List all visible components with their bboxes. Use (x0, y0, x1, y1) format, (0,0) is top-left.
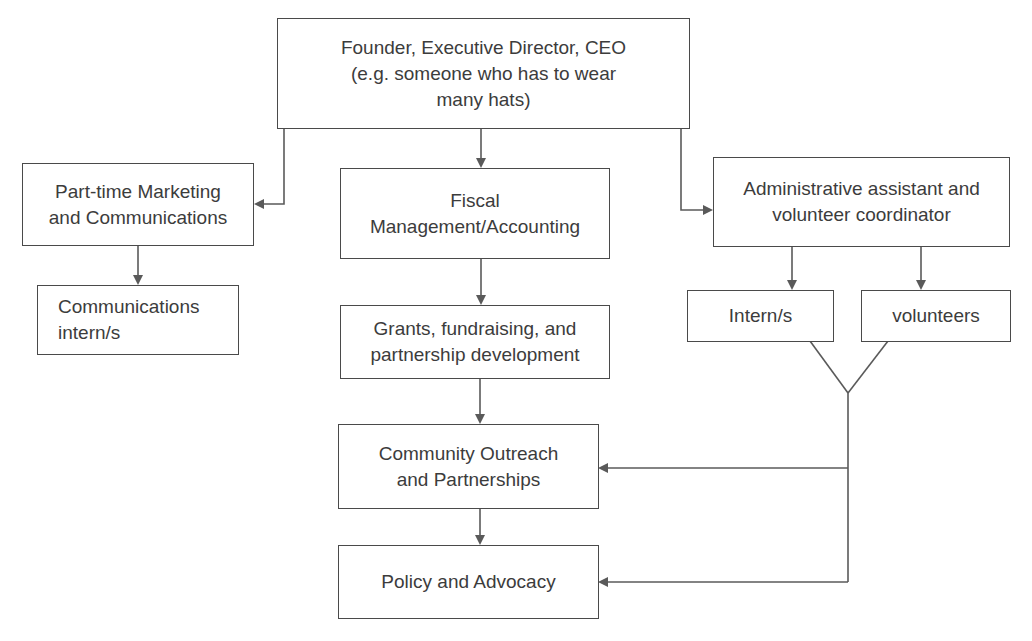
node-ceo-label: Founder, Executive Director, CEO (e.g. s… (341, 35, 626, 113)
node-interns-label: Intern/s (729, 303, 792, 329)
node-marketing: Part-time Marketing and Communications (22, 163, 254, 246)
node-community-label: Community Outreach and Partnerships (379, 441, 559, 493)
node-grants-label: Grants, fundraising, and partnership dev… (370, 316, 579, 368)
edge-ceo-admin (681, 128, 711, 210)
node-policy: Policy and Advocacy (338, 545, 599, 619)
node-interns: Intern/s (687, 290, 834, 342)
node-fiscal: Fiscal Management/Accounting (340, 168, 610, 259)
org-chart-diagram: Founder, Executive Director, CEO (e.g. s… (0, 0, 1032, 641)
node-marketing-label: Part-time Marketing and Communications (49, 179, 227, 231)
node-grants: Grants, fundraising, and partnership dev… (340, 305, 610, 379)
edge-ceo-marketing (256, 128, 284, 204)
node-volunteers-label: volunteers (892, 303, 980, 329)
node-volunteers: volunteers (861, 290, 1011, 342)
node-admin: Administrative assistant and volunteer c… (713, 157, 1010, 247)
edge-merge-volunteers (848, 341, 888, 393)
node-comms-interns: Communications intern/s (37, 285, 239, 355)
node-fiscal-label: Fiscal Management/Accounting (370, 188, 580, 240)
node-admin-label: Administrative assistant and volunteer c… (743, 176, 980, 228)
node-community: Community Outreach and Partnerships (338, 424, 599, 509)
edge-merge-interns (810, 341, 848, 393)
node-ceo: Founder, Executive Director, CEO (e.g. s… (277, 18, 690, 129)
node-policy-label: Policy and Advocacy (381, 569, 555, 595)
node-comms-interns-label: Communications intern/s (58, 294, 200, 346)
